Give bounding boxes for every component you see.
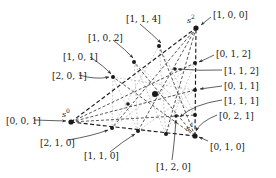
vertex-label-s2: s2 <box>187 14 195 25</box>
label-1-0-2: [1, 0, 2] <box>88 34 123 43</box>
fine-l <box>159 46 166 134</box>
fine-subdivision-lines <box>112 46 195 134</box>
node-edge-02-a <box>111 75 115 79</box>
median-s2-left <box>112 28 196 128</box>
arrow-0-1-0 <box>199 137 208 141</box>
node-interior-b <box>173 67 177 71</box>
label-1-0-1: [1, 0, 1] <box>63 53 98 62</box>
node-edge-02-b <box>132 60 136 64</box>
fine-a <box>113 77 138 131</box>
vertex-label-exponent: 1 <box>190 121 194 128</box>
arrow-1-0-0 <box>201 17 211 25</box>
fine-c <box>159 46 195 115</box>
label-2-1-0: [2, 1, 0] <box>40 139 75 148</box>
vertex-label-exponent: 2 <box>191 13 195 20</box>
arrow-0-1-1 <box>200 86 222 89</box>
node-edge-12-c <box>193 113 197 117</box>
fine-k <box>134 62 138 131</box>
label-0-1-2: [0, 1, 2] <box>216 50 251 59</box>
label-0-2-1: [0, 2, 1] <box>219 112 254 121</box>
median-lines <box>71 28 196 136</box>
median-s0-bary <box>71 63 195 122</box>
edge-s1-s2 <box>195 28 196 136</box>
node-s0 <box>68 119 73 124</box>
fine-g <box>113 77 195 90</box>
median-s1-bary <box>113 77 195 136</box>
node-edge-01-b <box>136 129 140 133</box>
label-1-1-0: [1, 1, 0] <box>84 152 119 161</box>
edge-s0-s1 <box>71 122 195 136</box>
node-edge-12-a <box>193 61 197 65</box>
vertex-label-exponent: 0 <box>66 107 70 114</box>
label-0-1-1: [0, 1, 1] <box>224 82 259 91</box>
arrow-1-1-1 <box>180 100 222 117</box>
node-edge-01-c <box>164 132 168 136</box>
fine-e <box>112 46 159 128</box>
label-2-0-1: [2, 0, 1] <box>52 72 87 81</box>
simplex-outline <box>71 28 196 136</box>
vertex-label-s1: s1 <box>186 122 194 133</box>
label-0-1-0: [0, 1, 0] <box>210 143 245 152</box>
label-0-0-1: [0, 0, 1] <box>6 117 41 126</box>
label-1-1-1: [1, 1, 1] <box>224 97 259 106</box>
node-edge-01-a <box>110 126 114 130</box>
simplex-subdivision-diagram: [1, 1, 4][1, 0, 0][1, 0, 2][0, 1, 2][1, … <box>0 0 276 178</box>
node-edge-12-b <box>193 88 197 92</box>
node-s1 <box>192 133 197 138</box>
arrow-1-2-0 <box>172 120 176 160</box>
arrow-1-1-2 <box>178 69 222 70</box>
label-1-2-0: [1, 2, 0] <box>156 163 191 172</box>
vertex-label-s0: s0 <box>62 108 70 119</box>
label-1-1-4: [1, 1, 4] <box>126 15 161 24</box>
node-s2 <box>193 25 198 30</box>
node-interior-c <box>174 114 178 118</box>
label-1-0-0: [1, 0, 0] <box>213 11 248 20</box>
node-barycenter <box>152 91 158 97</box>
arrow-1-1-4 <box>140 24 161 43</box>
arrow-1-1-0 <box>110 134 135 152</box>
arrow-0-1-2 <box>199 55 214 62</box>
node-edge-02-c <box>157 44 161 48</box>
label-1-1-2: [1, 1, 2] <box>224 67 259 76</box>
node-interior-a <box>126 102 130 106</box>
arrow-0-2-1 <box>196 115 217 131</box>
